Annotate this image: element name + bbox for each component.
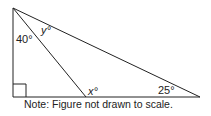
scale-note: Note: Figure not drawn to scale. <box>24 98 173 110</box>
angle-y-label: y° <box>40 24 52 36</box>
angle-x-label: x° <box>87 85 99 97</box>
angle-25-label: 25° <box>158 84 175 96</box>
right-angle-mark <box>13 84 26 97</box>
angle-40-label: 40° <box>16 33 33 45</box>
